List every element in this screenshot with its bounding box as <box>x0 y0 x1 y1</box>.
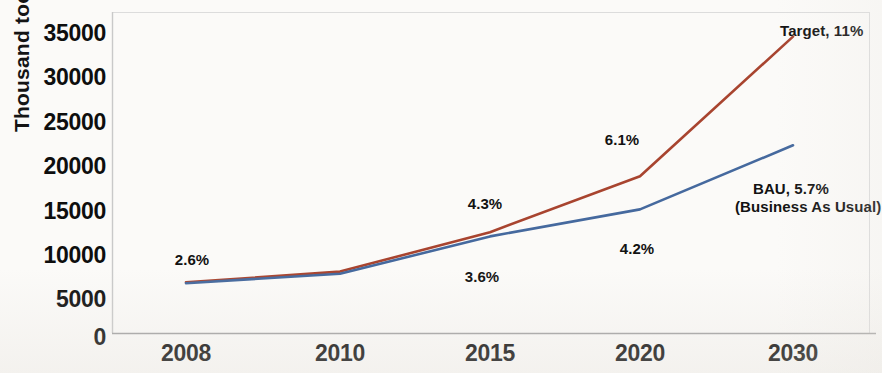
series-line-bau <box>186 145 793 283</box>
annotation-4-2-pct: 4.2% <box>620 240 655 257</box>
annotation-2-6-pct: 2.6% <box>175 251 210 268</box>
x-tick-2010: 2010 <box>315 340 365 367</box>
series-label-target: Target, 11% <box>780 22 863 39</box>
x-tick-2008: 2008 <box>161 340 211 367</box>
annotation-3-6-pct: 3.6% <box>465 268 500 285</box>
line-chart: Thousand toe 35000 30000 25000 20000 150… <box>0 0 882 373</box>
series-sublabel-bau: (Business As Usual) <box>735 198 881 215</box>
x-tick-2030: 2030 <box>768 340 818 367</box>
annotation-4-3-pct: 4.3% <box>468 195 503 212</box>
x-tick-2015: 2015 <box>465 340 515 367</box>
x-tick-2020: 2020 <box>615 340 665 367</box>
series-line-target <box>186 37 793 283</box>
plot-border <box>113 13 870 334</box>
annotation-6-1-pct: 6.1% <box>605 131 640 148</box>
series-label-bau: BAU, 5.7% <box>753 180 829 197</box>
plot-area <box>0 0 882 373</box>
